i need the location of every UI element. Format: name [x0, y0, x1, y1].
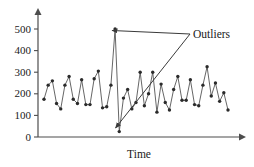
- data-point: [63, 83, 66, 86]
- data-point: [122, 96, 125, 99]
- data-point: [189, 78, 192, 81]
- y-tick-label-500: 500: [15, 23, 32, 35]
- data-point: [184, 99, 187, 102]
- series-line-observed: [44, 29, 228, 132]
- data-point: [88, 103, 91, 106]
- y-tick-label-200: 200: [15, 87, 32, 99]
- data-point: [92, 77, 95, 80]
- data-point: [76, 102, 79, 105]
- data-point: [143, 104, 146, 107]
- data-point: [101, 106, 104, 109]
- data-point: [80, 78, 83, 81]
- data-point: [205, 65, 208, 68]
- data-point: [151, 71, 154, 74]
- data-point: [218, 100, 221, 103]
- y-tick-label-0: 0: [26, 131, 32, 143]
- data-point: [72, 98, 75, 101]
- data-point: [51, 79, 54, 82]
- data-point: [180, 99, 183, 102]
- data-point: [168, 108, 171, 111]
- data-point: [46, 83, 49, 86]
- data-point: [226, 108, 229, 111]
- x-axis-title: Time: [127, 148, 151, 160]
- y-tick-label-300: 300: [15, 66, 32, 78]
- chart-canvas: 0 100 200 300 400 500 Outliers Time: [0, 0, 254, 167]
- outliers-label: Outliers: [193, 28, 231, 40]
- chart-figure: 0 100 200 300 400 500 Outliers Time: [0, 0, 254, 167]
- data-point: [109, 83, 112, 86]
- data-point: [176, 75, 179, 78]
- outlier-leader-high: [112, 31, 190, 35]
- data-point: [172, 88, 175, 91]
- data-point: [59, 107, 62, 110]
- data-point: [193, 103, 196, 106]
- data-point: [147, 92, 150, 95]
- data-point: [126, 88, 129, 91]
- y-tick-label-100: 100: [15, 109, 32, 121]
- data-point: [138, 71, 141, 74]
- data-point: [105, 105, 108, 108]
- data-point: [201, 83, 204, 86]
- data-point: [97, 69, 100, 72]
- data-point: [222, 91, 225, 94]
- data-point: [67, 75, 70, 78]
- data-point: [42, 98, 45, 101]
- data-point: [210, 94, 213, 97]
- data-point: [84, 103, 87, 106]
- data-point: [118, 130, 121, 133]
- y-axis-tick-labels: 0 100 200 300 400 500: [15, 23, 32, 143]
- data-point: [159, 82, 162, 85]
- data-point: [55, 102, 58, 105]
- series-markers: [42, 27, 229, 133]
- data-point: [214, 81, 217, 84]
- data-point: [197, 104, 200, 107]
- data-point: [164, 101, 167, 104]
- data-point: [155, 110, 158, 113]
- y-tick-label-400: 400: [15, 44, 32, 56]
